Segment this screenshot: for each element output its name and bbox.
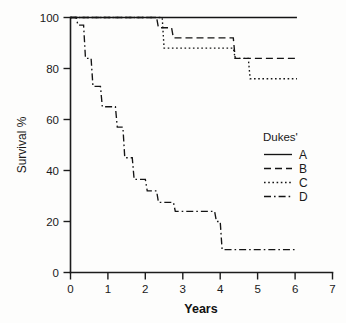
y-tick-label-40: 40 [46, 165, 59, 177]
legend-item-b[interactable]: B [264, 162, 307, 176]
series-line-B [71, 18, 297, 59]
legend-label-d: D [299, 190, 308, 204]
x-axis-title: Years [184, 302, 217, 316]
y-axis-ticks [64, 18, 71, 273]
y-tick-label-80: 80 [46, 63, 59, 75]
x-axis-ticks [71, 273, 333, 280]
x-tick-label-3: 3 [180, 283, 186, 295]
legend-item-c[interactable]: C [264, 176, 308, 190]
survival-curve-figure: 100 80 60 40 20 0 0 1 2 3 4 5 6 7 Years … [0, 0, 346, 323]
x-tick-label-4: 4 [217, 283, 224, 295]
legend-label-a: A [299, 148, 307, 162]
x-tick-label-1: 1 [105, 283, 111, 295]
x-tick-label-6: 6 [292, 283, 298, 295]
y-axis-title: Survival % [15, 116, 29, 173]
y-tick-label-20: 20 [46, 216, 59, 228]
kaplan-meier-chart: 100 80 60 40 20 0 0 1 2 3 4 5 6 7 Years … [0, 0, 346, 323]
legend-item-a[interactable]: A [264, 148, 307, 162]
y-tick-label-60: 60 [46, 114, 59, 126]
y-tick-label-100: 100 [40, 12, 59, 24]
x-tick-label-5: 5 [254, 283, 260, 295]
x-tick-label-7: 7 [329, 283, 335, 295]
series-line-C [71, 18, 297, 79]
legend-label-c: C [299, 176, 308, 190]
y-tick-label-0: 0 [53, 267, 59, 279]
legend-label-b: B [299, 162, 307, 176]
legend-title: Dukes' [263, 131, 298, 143]
legend-item-d[interactable]: D [264, 190, 308, 204]
x-tick-label-2: 2 [142, 283, 148, 295]
legend: Dukes' A B C D [263, 131, 308, 204]
x-tick-label-0: 0 [67, 283, 73, 295]
